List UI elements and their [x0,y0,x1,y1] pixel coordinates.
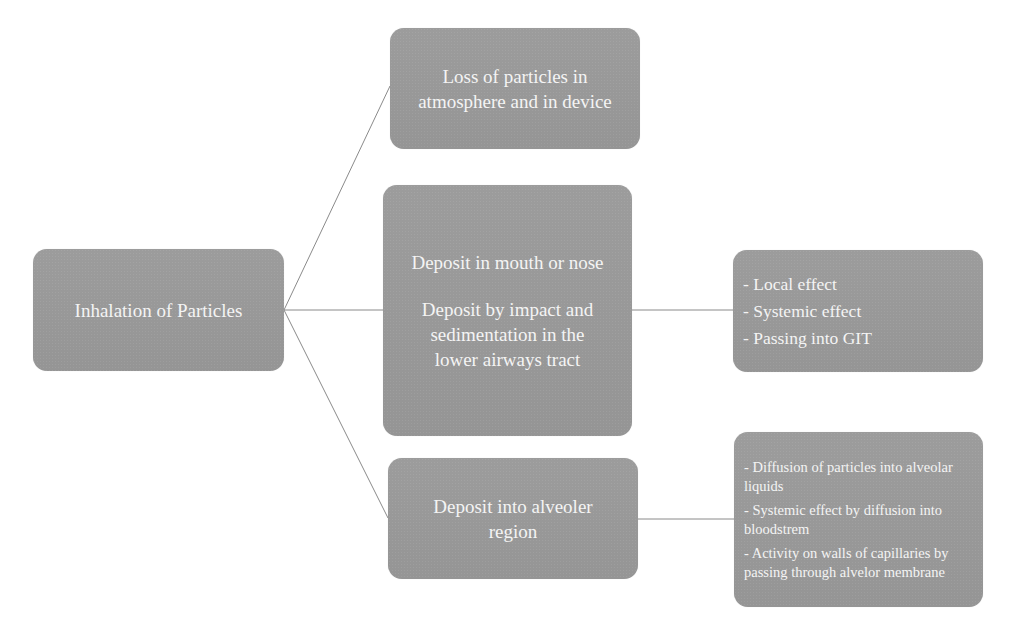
node-alveolar-line-1: Deposit into alveoler [433,494,592,519]
node-deposit-alveolar: Deposit into alveoler region [388,458,638,579]
node-alveolar-line-2: region [489,519,538,544]
node-deposit-impact-line-1: Deposit by impact and [422,297,594,322]
effect-item-git: - Passing into GIT [743,325,872,352]
effect-item-capillaries: - Activity on walls of capillaries by pa… [744,544,975,582]
node-loss-line-2: atmosphere and in device [418,89,612,114]
root-node-label: Inhalation of Particles [75,298,243,323]
node-upper-airway-effects: - Local effect - Systemic effect - Passi… [733,250,983,372]
root-node-inhalation: Inhalation of Particles [33,249,284,371]
node-deposit-impact-line-2: sedimentation in the [430,322,584,347]
connector-root-to-loss [284,86,390,310]
effect-item-local: - Local effect [743,271,837,298]
node-deposit-mouth-nose: Deposit in mouth or nose [411,250,603,275]
effect-item-bloodstream: - Systemic effect by diffusion into bloo… [744,501,975,539]
node-loss-line-1: Loss of particles in [442,64,587,89]
effect-item-systemic: - Systemic effect [743,298,861,325]
node-loss-of-particles: Loss of particles in atmosphere and in d… [390,28,640,149]
connector-root-to-alveolar [284,310,388,518]
node-deposit-impact-line-3: lower airways tract [435,347,581,372]
node-alveolar-effects: - Diffusion of particles into alveolar l… [734,432,983,607]
effect-item-diffusion: - Diffusion of particles into alveolar l… [744,458,975,496]
node-deposit-upper-airways: Deposit in mouth or nose Deposit by impa… [383,185,632,436]
